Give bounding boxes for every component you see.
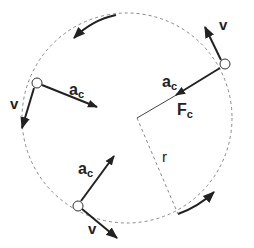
velocity-label-bottom: v <box>88 220 97 237</box>
velocity-label-left: v <box>10 95 19 112</box>
motion-direction-arrow-top <box>74 15 116 38</box>
circular-motion-diagram: r v ac Fc v ac v ac <box>0 0 254 248</box>
particle-top-right <box>220 59 230 69</box>
force-sub: c <box>187 108 193 120</box>
accel-sub: c <box>87 167 93 179</box>
particle-left <box>32 78 42 88</box>
velocity-label-top-right: v <box>219 16 228 33</box>
accel-sub: c <box>78 88 84 100</box>
accel-main: a <box>78 160 87 177</box>
acceleration-arrow-top-right <box>176 68 220 95</box>
acceleration-label-bottom: ac <box>78 160 93 179</box>
particle-bottom <box>73 201 83 211</box>
acceleration-label-top-right: ac <box>162 73 177 92</box>
force-label: Fc <box>177 101 193 120</box>
motion-direction-arrow-bottom <box>178 192 214 214</box>
center-line <box>137 94 178 118</box>
accel-main: a <box>162 73 171 90</box>
accel-sub: c <box>171 80 177 92</box>
force-main: F <box>177 101 187 118</box>
acceleration-label-left: ac <box>69 81 84 100</box>
radius-label: r <box>162 148 167 165</box>
velocity-arrow-left <box>22 88 34 128</box>
radius-line <box>137 118 178 214</box>
accel-main: a <box>69 81 78 98</box>
circular-path <box>22 13 232 223</box>
